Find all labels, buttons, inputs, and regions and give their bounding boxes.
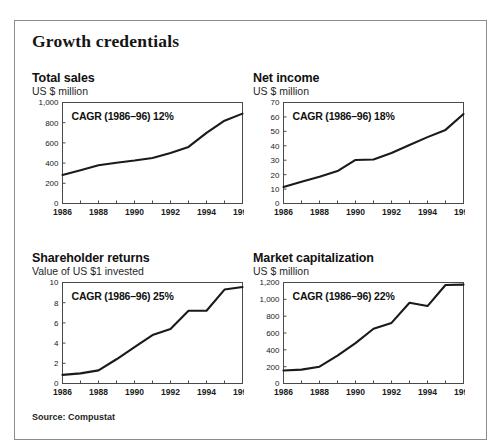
svg-text:600: 600 [45,139,59,148]
svg-text:1990: 1990 [125,207,144,217]
svg-text:1996: 1996 [454,387,465,397]
svg-text:2: 2 [54,359,59,368]
svg-text:1,000: 1,000 [259,295,280,304]
chart-panel-market-capitalization: Market capitalization US $ million 02004… [253,251,465,401]
svg-text:60: 60 [271,113,280,122]
cagr-annotation-shareholder-returns: CAGR (1986–96) 25% [72,290,174,302]
chart-panel-shareholder-returns: Shareholder returns Value of US $1 inves… [32,251,244,401]
plot-area-shareholder-returns: 0246810198619881990199219941996 CAGR (19… [32,280,244,401]
chart-title-total-sales: Total sales [32,71,95,85]
svg-text:1992: 1992 [382,207,401,217]
svg-text:800: 800 [266,312,280,321]
page-title: Growth credentials [32,31,179,52]
svg-text:50: 50 [271,127,280,136]
svg-text:800: 800 [45,119,59,128]
svg-text:8: 8 [54,299,59,308]
svg-text:200: 200 [45,179,59,188]
svg-text:1996: 1996 [233,387,244,397]
chart-subtitle-total-sales: US $ million [32,85,88,97]
svg-text:1,200: 1,200 [259,280,280,287]
svg-text:1988: 1988 [89,387,108,397]
svg-text:1986: 1986 [274,207,293,217]
svg-text:400: 400 [45,159,59,168]
svg-text:1990: 1990 [346,207,365,217]
svg-text:1,000: 1,000 [38,100,59,107]
svg-text:10: 10 [271,185,280,194]
svg-text:1986: 1986 [53,387,72,397]
cagr-annotation-net-income: CAGR (1986–96) 18% [293,110,395,122]
svg-text:1988: 1988 [310,387,329,397]
svg-text:6: 6 [54,319,59,328]
svg-text:1992: 1992 [382,387,401,397]
svg-text:40: 40 [271,142,280,151]
svg-text:30: 30 [271,156,280,165]
plot-area-market-capitalization: 02004006008001,0001,20019861988199019921… [253,280,465,401]
cagr-annotation-total-sales: CAGR (1986–96) 12% [72,110,174,122]
plot-area-net-income: 010203040506070198619881990199219941996 … [253,100,465,221]
svg-text:1994: 1994 [418,207,437,217]
source-note: Source: Compustat [32,412,115,422]
svg-text:4: 4 [54,339,59,348]
chart-title-shareholder-returns: Shareholder returns [32,251,150,265]
chart-panel-net-income: Net income US $ million 0102030405060701… [253,71,465,221]
cagr-annotation-market-capitalization: CAGR (1986–96) 22% [293,290,395,302]
chart-title-market-capitalization: Market capitalization [253,251,374,265]
plot-area-total-sales: 02004006008001,0001986198819901992199419… [32,100,244,221]
svg-text:1992: 1992 [161,387,180,397]
chart-subtitle-market-capitalization: US $ million [253,265,309,277]
svg-text:10: 10 [50,280,59,287]
svg-text:400: 400 [266,346,280,355]
svg-text:1994: 1994 [418,387,437,397]
chart-title-net-income: Net income [253,71,319,85]
svg-text:70: 70 [271,100,280,107]
svg-text:200: 200 [266,363,280,372]
figure-frame: Growth credentials Total sales US $ mill… [14,20,487,440]
svg-text:1990: 1990 [125,387,144,397]
svg-text:1994: 1994 [197,387,216,397]
chart-subtitle-net-income: US $ million [253,85,309,97]
svg-text:1992: 1992 [161,207,180,217]
chart-subtitle-shareholder-returns: Value of US $1 invested [32,265,144,277]
svg-text:1996: 1996 [454,207,465,217]
svg-text:600: 600 [266,329,280,338]
svg-text:1994: 1994 [197,207,216,217]
svg-text:1988: 1988 [89,207,108,217]
svg-text:1986: 1986 [53,207,72,217]
svg-text:20: 20 [271,171,280,180]
svg-text:1986: 1986 [274,387,293,397]
chart-panel-total-sales: Total sales US $ million 02004006008001,… [32,71,244,221]
svg-text:1988: 1988 [310,207,329,217]
svg-text:1990: 1990 [346,387,365,397]
svg-text:1996: 1996 [233,207,244,217]
